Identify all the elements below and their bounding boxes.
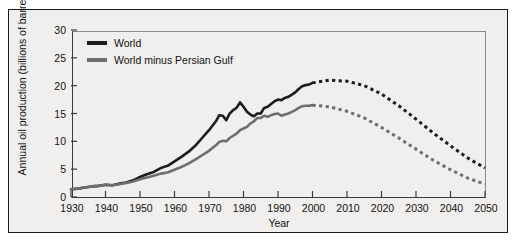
series-line-historical xyxy=(71,83,313,189)
chart-lines xyxy=(0,0,519,245)
chart-figure: Annual oil production (billions of barre… xyxy=(0,0,519,245)
series-line-projected xyxy=(313,105,486,184)
series-line-projected xyxy=(313,80,486,168)
